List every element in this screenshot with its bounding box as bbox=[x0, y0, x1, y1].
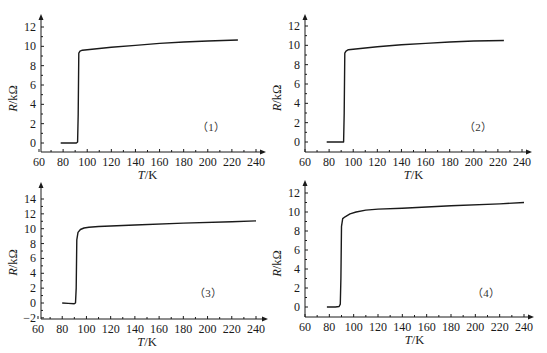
x-tick-label: 200 bbox=[465, 155, 483, 169]
panel-label: （4） bbox=[472, 287, 500, 299]
y-tick-label: 0 bbox=[294, 300, 300, 314]
y-tick-label: 10 bbox=[24, 222, 36, 236]
x-tick-label: 80 bbox=[57, 155, 69, 169]
y-axis-title: R/kΩ bbox=[6, 85, 20, 113]
y-tick-label: 0 bbox=[30, 136, 36, 150]
y-axis-title: R/kΩ bbox=[270, 85, 284, 113]
chart-panel-3: 6080100120140160180200220240−20246810121… bbox=[6, 182, 268, 349]
figure-four-resistance-panels: 6080100120140160180200220240024681012T/K… bbox=[0, 0, 547, 353]
x-axis-title: T/K bbox=[138, 168, 157, 182]
x-axis-arrow-icon bbox=[526, 150, 532, 155]
y-axis-arrow-icon bbox=[303, 14, 308, 20]
y-tick-label: 12 bbox=[288, 19, 300, 33]
y-tick-label: 2 bbox=[294, 281, 300, 295]
x-tick-label: 140 bbox=[392, 155, 410, 169]
x-tick-label: 140 bbox=[393, 320, 411, 334]
x-tick-label: 240 bbox=[515, 320, 533, 334]
y-tick-label: 4 bbox=[294, 96, 300, 110]
x-tick-label: 180 bbox=[441, 155, 459, 169]
y-tick-label: 8 bbox=[294, 224, 300, 238]
y-tick-label: −2 bbox=[23, 311, 36, 325]
y-axis-title: R/kΩ bbox=[6, 249, 20, 277]
x-axis-title: T/K bbox=[405, 333, 424, 347]
chart-panel-2: 6080100120140160180200220240024681012T/K… bbox=[270, 14, 532, 182]
x-tick-label: 140 bbox=[126, 322, 144, 336]
y-tick-label: 4 bbox=[30, 97, 36, 111]
x-tick-label: 220 bbox=[223, 322, 241, 336]
y-tick-label: 0 bbox=[30, 296, 36, 310]
x-tick-label: 180 bbox=[174, 322, 192, 336]
x-tick-label: 180 bbox=[175, 155, 193, 169]
y-axis-arrow-icon bbox=[303, 180, 308, 186]
x-tick-label: 220 bbox=[223, 155, 241, 169]
x-tick-label: 140 bbox=[126, 155, 144, 169]
y-tick-label: 8 bbox=[294, 58, 300, 72]
x-tick-label: 120 bbox=[102, 155, 120, 169]
x-tick-label: 240 bbox=[247, 322, 265, 336]
x-tick-label: 200 bbox=[199, 155, 217, 169]
x-tick-label: 100 bbox=[345, 320, 363, 334]
chart-panel-4: 6080100120140160180200220240024681012T/K… bbox=[270, 180, 534, 347]
x-tick-label: 120 bbox=[369, 320, 387, 334]
x-tick-label: 80 bbox=[323, 155, 335, 169]
x-tick-label: 100 bbox=[78, 155, 96, 169]
x-axis-arrow-icon bbox=[262, 317, 268, 322]
x-tick-label: 60 bbox=[299, 155, 311, 169]
chart-panel-1: 6080100120140160180200220240024681012T/K… bbox=[6, 14, 266, 182]
x-axis-arrow-icon bbox=[260, 150, 266, 155]
y-tick-label: 6 bbox=[30, 251, 36, 265]
y-tick-label: 10 bbox=[288, 205, 300, 219]
y-tick-label: 6 bbox=[294, 243, 300, 257]
x-tick-label: 80 bbox=[323, 320, 335, 334]
x-tick-label: 240 bbox=[513, 155, 531, 169]
x-tick-label: 60 bbox=[299, 320, 311, 334]
y-axis-arrow-icon bbox=[39, 182, 44, 188]
y-tick-label: 4 bbox=[294, 262, 300, 276]
y-tick-label: 0 bbox=[294, 135, 300, 149]
x-tick-label: 240 bbox=[247, 155, 265, 169]
x-tick-label: 120 bbox=[368, 155, 386, 169]
panel-label: （1） bbox=[197, 121, 225, 133]
x-axis-arrow-icon bbox=[528, 315, 534, 320]
y-tick-label: 4 bbox=[30, 266, 36, 280]
x-tick-label: 160 bbox=[418, 320, 436, 334]
y-tick-label: 2 bbox=[30, 117, 36, 131]
x-tick-label: 220 bbox=[491, 320, 509, 334]
y-tick-label: 8 bbox=[30, 237, 36, 251]
x-tick-label: 160 bbox=[151, 155, 169, 169]
y-tick-label: 2 bbox=[30, 281, 36, 295]
x-axis-title: T/K bbox=[404, 168, 423, 182]
x-axis-title: T/K bbox=[137, 335, 156, 349]
panel-label: （3） bbox=[194, 287, 222, 299]
y-tick-label: 12 bbox=[24, 20, 36, 34]
y-tick-label: 12 bbox=[24, 207, 36, 221]
x-tick-label: 180 bbox=[442, 320, 460, 334]
y-tick-label: 6 bbox=[294, 77, 300, 91]
x-tick-label: 220 bbox=[489, 155, 507, 169]
resistance-curve bbox=[62, 221, 256, 304]
y-tick-label: 8 bbox=[30, 59, 36, 73]
panel-label: （2） bbox=[464, 121, 492, 133]
x-tick-label: 160 bbox=[417, 155, 435, 169]
y-axis-arrow-icon bbox=[39, 14, 44, 20]
x-tick-label: 200 bbox=[199, 322, 217, 336]
y-tick-label: 14 bbox=[24, 192, 36, 206]
x-tick-label: 120 bbox=[102, 322, 120, 336]
x-tick-label: 100 bbox=[344, 155, 362, 169]
y-tick-label: 2 bbox=[294, 116, 300, 130]
x-tick-label: 60 bbox=[33, 155, 45, 169]
y-tick-label: 10 bbox=[24, 39, 36, 53]
x-tick-label: 200 bbox=[466, 320, 484, 334]
x-tick-label: 100 bbox=[77, 322, 95, 336]
y-tick-label: 10 bbox=[288, 38, 300, 52]
x-tick-label: 80 bbox=[56, 322, 68, 336]
y-tick-label: 6 bbox=[30, 78, 36, 92]
y-axis-title: R/kΩ bbox=[270, 250, 284, 278]
x-tick-label: 160 bbox=[150, 322, 168, 336]
y-tick-label: 12 bbox=[288, 186, 300, 200]
